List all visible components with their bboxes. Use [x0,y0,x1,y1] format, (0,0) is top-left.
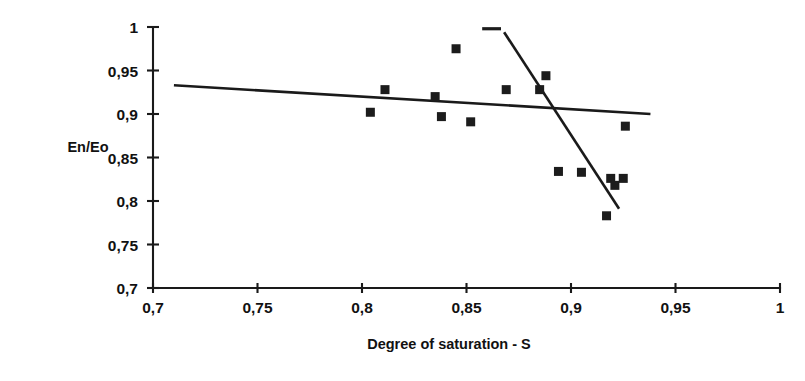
data-point-marker [437,112,446,121]
data-point-marker [535,85,544,94]
data-point-marker [621,122,630,131]
y-axis-tick-labels: 0,70,750,80,850,90,951 [108,19,139,297]
data-point-marker [541,71,550,80]
x-tick-label: 0,85 [451,299,482,316]
data-points [366,44,630,220]
data-point-marker [466,117,475,126]
x-tick-label: 0,75 [242,299,273,316]
data-point-marker [452,44,461,53]
data-point-marker [610,181,619,190]
x-tick-label: 0,7 [142,299,164,316]
data-point-marker [431,92,440,101]
x-tick-label: 0,95 [660,299,691,316]
y-tick-label: 0,95 [108,63,139,80]
steep-regression-line [504,32,619,209]
axis-ticks [147,27,780,293]
data-point-marker [554,167,563,176]
y-tick-label: 0,9 [116,106,138,123]
trend-lines [174,32,651,209]
y-axis-label: En/Eo [67,139,108,155]
x-tick-label: 0,9 [560,299,582,316]
x-axis-label: Degree of saturation - S [367,336,531,352]
y-tick-label: 0,8 [116,193,138,210]
y-tick-label: 0,75 [108,237,139,254]
data-point-marker [577,168,586,177]
data-point-marker [502,85,511,94]
chart-figure: 0,70,750,80,850,90,951 0,70,750,80,850,9… [0,0,805,381]
y-tick-label: 0,85 [108,150,139,167]
data-point-marker [619,174,628,183]
axes [153,27,780,288]
data-point-marker [366,108,375,117]
y-tick-label: 0,7 [116,280,138,297]
shallow-regression-line [174,85,651,114]
data-point-marker [602,211,611,220]
x-axis-tick-labels: 0,70,750,80,850,90,951 [142,299,784,316]
x-tick-label: 1 [776,299,785,316]
x-tick-label: 0,8 [351,299,373,316]
data-point-marker [380,85,389,94]
y-tick-label: 1 [129,19,138,36]
chart-canvas: 0,70,750,80,850,90,951 0,70,750,80,850,9… [0,0,805,381]
